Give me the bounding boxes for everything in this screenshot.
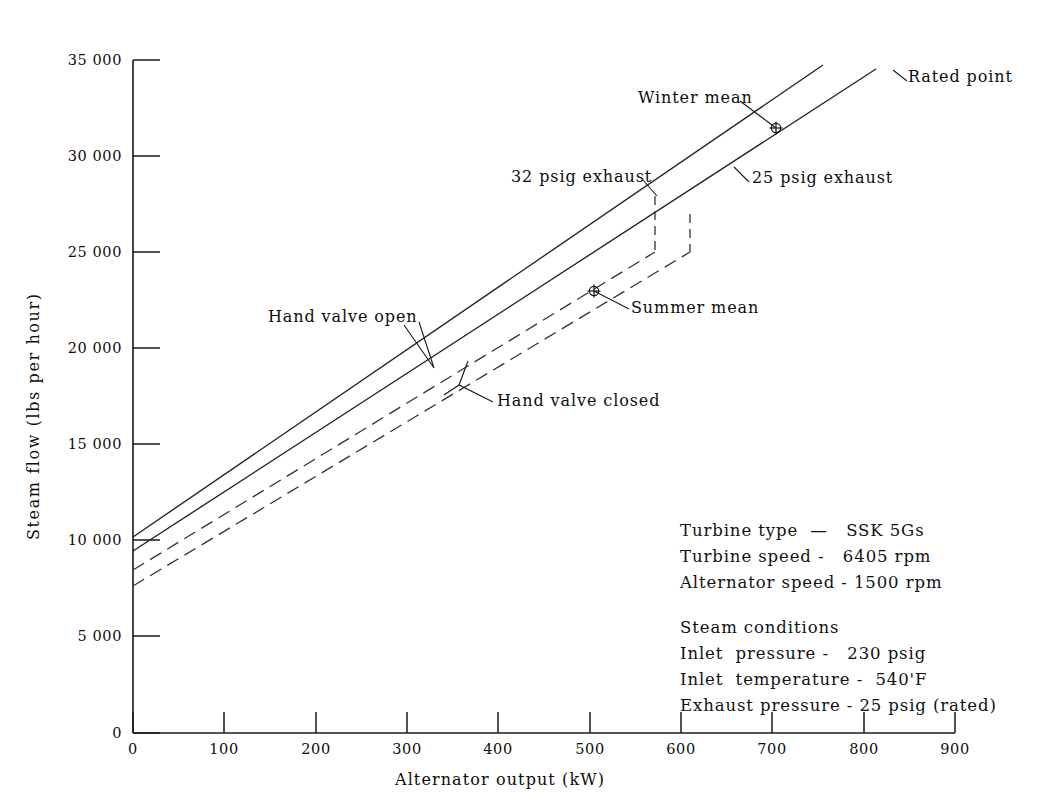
annotation-exhaust-25: 25 psig exhaust [752, 168, 893, 187]
x-tick-label-800: 800 [844, 741, 884, 757]
leader-hand-valve-closed [444, 385, 493, 402]
spec-inlet-temperature: Inlet temperature - 540'F [680, 667, 997, 693]
y-tick-label-35000: 35 000 [44, 52, 122, 68]
x-tick-label-0: 0 [113, 741, 153, 757]
x-tick-label-400: 400 [478, 741, 518, 757]
y-tick-label-10000: 10 000 [44, 532, 122, 548]
y-tick-label-20000: 20 000 [44, 340, 122, 356]
y-axis-ticks [133, 60, 160, 733]
spec-inlet-pressure: Inlet pressure - 230 psig [680, 641, 997, 667]
y-axis-title: Steam flow (lbs per hour) [24, 292, 43, 540]
x-tick-label-200: 200 [296, 741, 336, 757]
x-tick-label-700: 700 [752, 741, 792, 757]
x-tick-label-600: 600 [661, 741, 701, 757]
annotation-exhaust-32: 32 psig exhaust [511, 167, 652, 186]
spec-block-steam: Steam conditions Inlet pressure - 230 ps… [680, 615, 997, 719]
leader-hand-valve-closed-2 [459, 361, 468, 385]
annotation-winter-mean: Winter mean [638, 88, 753, 107]
annotation-hand-valve-closed: Hand valve closed [497, 391, 660, 410]
series-line-32psig-closed [133, 252, 655, 570]
x-axis-title: Alternator output (kW) [395, 770, 605, 789]
spec-steam-heading: Steam conditions [680, 615, 997, 641]
leader-rated-point [893, 70, 907, 81]
series-line-25psig-open [133, 69, 876, 551]
y-tick-label-30000: 30 000 [44, 148, 122, 164]
annotation-summer-mean: Summer mean [631, 298, 759, 317]
x-tick-label-500: 500 [570, 741, 610, 757]
y-tick-label-25000: 25 000 [44, 244, 122, 260]
leader-exhaust-25 [734, 167, 749, 182]
spec-block-machine: Turbine type — SSK 5Gs Turbine speed - 6… [680, 518, 942, 596]
x-tick-label-900: 900 [935, 741, 975, 757]
annotation-rated-point: Rated point [908, 67, 1013, 86]
annotation-hand-valve-open: Hand valve open [268, 307, 418, 326]
spec-turbine-speed: Turbine speed - 6405 rpm [680, 544, 942, 570]
y-tick-label-5000: 5 000 [44, 628, 122, 644]
x-tick-label-100: 100 [204, 741, 244, 757]
x-tick-label-300: 300 [387, 741, 427, 757]
leader-hand-valve-open [404, 322, 434, 368]
spec-turbine-type: Turbine type — SSK 5Gs [680, 518, 942, 544]
series-line-25psig-closed [133, 252, 690, 586]
spec-alternator-speed: Alternator speed - 1500 rpm [680, 570, 942, 596]
spec-exhaust-pressure: Exhaust pressure - 25 psig (rated) [680, 693, 997, 719]
y-tick-label-15000: 15 000 [44, 436, 122, 452]
chart-canvas: 35 000 30 000 25 000 20 000 15 000 10 00… [0, 0, 1043, 809]
y-tick-label-0: 0 [44, 725, 122, 741]
